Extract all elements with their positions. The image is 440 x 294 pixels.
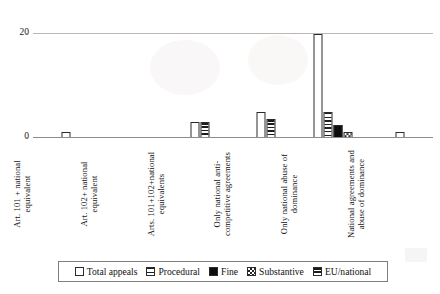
x-axis-label-art-101-national-equivalent: Art. 101 + national equivalent	[12, 140, 32, 248]
bar-groups	[33, 33, 433, 138]
legend-swatch-total-appeals-icon	[75, 267, 84, 276]
legend-swatch-substantive-icon	[247, 267, 256, 276]
x-axis-label-national-agreements-and-abuse-of-dominance: National agreements and abuse of dominan…	[346, 140, 366, 248]
bar-group-art-102-national-equivalent	[100, 33, 167, 138]
legend-label: EU/national	[325, 267, 371, 277]
x-axis-baseline	[33, 137, 433, 138]
legend-swatch-eu-national-icon	[313, 267, 322, 276]
bar-fine[interactable]	[334, 125, 343, 138]
scan-artifact	[405, 248, 427, 262]
x-axis-labels: Art. 101 + national equivalentArt. 102+ …	[33, 140, 433, 250]
bar-group-arts-101-102-national-equivalents	[166, 33, 233, 138]
bar-eu-national[interactable]	[200, 122, 209, 138]
x-axis-label-only-national-abuse-of-dominance: Only national abuse of dominance	[279, 140, 299, 248]
bar-total-appeals[interactable]	[257, 112, 266, 138]
chart-legend: Total appealsProceduralFineSubstantiveEU…	[58, 261, 388, 282]
bar-stack	[190, 34, 209, 138]
bar-chart: 20 0 Art. 101 + national equivalentArt. …	[0, 0, 440, 294]
legend-item-total-appeals[interactable]: Total appeals	[75, 267, 138, 277]
bar-stack	[395, 34, 404, 138]
bar-total-appeals[interactable]	[190, 122, 199, 138]
bar-group-only-national-anti-competitive-agreements	[233, 33, 300, 138]
legend-item-substantive[interactable]: Substantive	[247, 267, 304, 277]
x-axis-label-art-102-national-equivalent: Art. 102+ national equivalent	[79, 140, 99, 248]
y-tick-mark-0	[26, 137, 29, 138]
y-tick-mark-20	[26, 33, 29, 34]
bar-group-art-101-national-equivalent	[33, 33, 100, 138]
bar-group-national-agreements-and-abuse-of-dominance	[366, 33, 433, 138]
legend-label: Procedural	[158, 267, 200, 277]
legend-label: Total appeals	[87, 267, 138, 277]
legend-label: Substantive	[259, 267, 304, 277]
bar-procedural[interactable]	[324, 112, 333, 138]
legend-item-procedural[interactable]: Procedural	[146, 267, 200, 277]
legend-item-fine[interactable]: Fine	[209, 267, 238, 277]
bar-stack	[62, 34, 71, 138]
legend-swatch-fine-icon	[209, 267, 218, 276]
plot-area	[33, 33, 433, 138]
bar-stack	[314, 34, 353, 138]
x-axis-label-only-national-anti-competitive-agreements: Only national anti- competitive agreemen…	[212, 140, 232, 248]
legend-swatch-procedural-icon	[146, 267, 155, 276]
bar-stack	[257, 34, 276, 138]
x-axis-label-arts-101-102-national-equivalents: Arts. 101+102+national equivalents	[146, 140, 166, 248]
legend-item-eu-national[interactable]: EU/national	[313, 267, 371, 277]
x-label-cell: National agreements and abuse of dominan…	[366, 140, 433, 250]
legend-label: Fine	[221, 267, 238, 277]
y-axis: 20 0	[0, 33, 29, 138]
bar-group-only-national-abuse-of-dominance	[300, 33, 367, 138]
bar-eu-national[interactable]	[267, 119, 276, 137]
bar-total-appeals[interactable]	[314, 34, 323, 138]
